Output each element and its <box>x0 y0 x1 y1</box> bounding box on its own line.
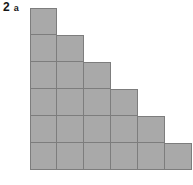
staircase-square <box>57 35 84 62</box>
staircase-row <box>30 89 192 116</box>
figure-label-part: a <box>14 4 19 13</box>
staircase-square <box>57 143 84 170</box>
staircase-square <box>165 143 192 170</box>
staircase-square <box>84 89 111 116</box>
staircase-square <box>111 89 138 116</box>
staircase-square <box>57 89 84 116</box>
staircase-block-diagram <box>30 8 192 170</box>
staircase-row <box>30 35 192 62</box>
staircase-square <box>57 62 84 89</box>
staircase-square <box>84 116 111 143</box>
staircase-square <box>30 143 57 170</box>
staircase-square <box>138 116 165 143</box>
staircase-square <box>30 8 57 35</box>
figure-canvas: 2 a <box>0 0 193 185</box>
staircase-row <box>30 143 192 170</box>
staircase-square <box>30 62 57 89</box>
figure-label: 2 a <box>3 1 19 13</box>
figure-label-number: 2 <box>3 1 10 13</box>
staircase-square <box>30 35 57 62</box>
staircase-square <box>138 143 165 170</box>
staircase-square <box>111 143 138 170</box>
staircase-row <box>30 8 192 35</box>
staircase-square <box>84 143 111 170</box>
staircase-square <box>111 116 138 143</box>
staircase-row <box>30 116 192 143</box>
staircase-square <box>30 116 57 143</box>
staircase-square <box>84 62 111 89</box>
staircase-square <box>30 89 57 116</box>
staircase-square <box>57 116 84 143</box>
staircase-row <box>30 62 192 89</box>
